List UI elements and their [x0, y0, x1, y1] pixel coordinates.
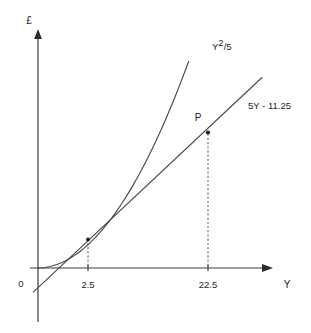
point-label-p: P	[195, 112, 202, 123]
x-axis-arrowhead	[262, 264, 273, 272]
y-axis-label: £	[26, 15, 32, 26]
line-label-straight: 5Y - 11.25	[248, 100, 291, 111]
x-axis-label: Y	[284, 279, 291, 290]
intersection-point-marker	[86, 238, 90, 242]
x-tick-label-22-5: 22.5	[199, 279, 218, 290]
curve-y-squared-over-5	[38, 62, 189, 269]
curve-label-tail: /5	[224, 41, 232, 52]
graph-canvas: £ Y 0 2.5 22.5 P Y2/5 5Y - 11.25	[0, 0, 311, 333]
figure-root: £ Y 0 2.5 22.5 P Y2/5 5Y - 11.25	[0, 0, 311, 333]
origin-label: 0	[18, 278, 23, 289]
curve-label-parabola: Y2/5	[212, 37, 232, 52]
line-5y-minus-11-25	[34, 78, 263, 292]
y-axis-arrowhead	[34, 29, 42, 39]
x-tick-label-2-5: 2.5	[81, 279, 94, 290]
tangency-point-marker	[206, 130, 210, 134]
